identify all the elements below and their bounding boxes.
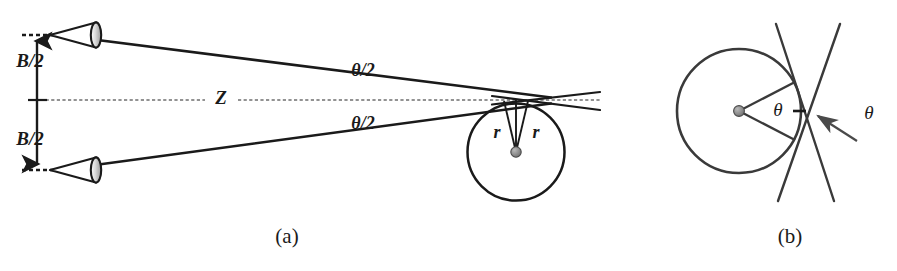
label-half-angle-top: θ/2 (351, 60, 374, 80)
tangent-line-1 (776, 24, 834, 201)
label-center-angle: θ (773, 99, 782, 120)
label-baseline-bottom: B/2 (15, 128, 44, 149)
tangent-line-2 (778, 24, 840, 201)
caption-panel-b: (b) (778, 224, 803, 248)
radius-upper (739, 82, 795, 111)
label-radius-right: r (532, 122, 540, 142)
label-tangent-angle: θ (864, 102, 873, 123)
camera-cone-top (50, 22, 101, 47)
panel-a: B/2 B/2 Z θ/2 θ/2 r r (a) (15, 22, 600, 248)
label-half-angle-bottom: θ/2 (351, 113, 374, 133)
label-baseline-top: B/2 (15, 50, 44, 71)
radius-lower (739, 111, 795, 140)
center-dot (734, 106, 745, 117)
camera-cone-bottom (50, 157, 101, 182)
angle-leader-arrow (818, 116, 857, 141)
panel-b: θ θ (b) (677, 24, 874, 248)
figure-container: B/2 B/2 Z θ/2 θ/2 r r (a) (0, 0, 897, 271)
diagram-canvas: B/2 B/2 Z θ/2 θ/2 r r (a) (0, 0, 897, 271)
label-radius-left: r (493, 122, 501, 142)
label-depth-z: Z (214, 87, 227, 108)
caption-panel-a: (a) (275, 224, 298, 248)
target-circle (468, 99, 565, 201)
